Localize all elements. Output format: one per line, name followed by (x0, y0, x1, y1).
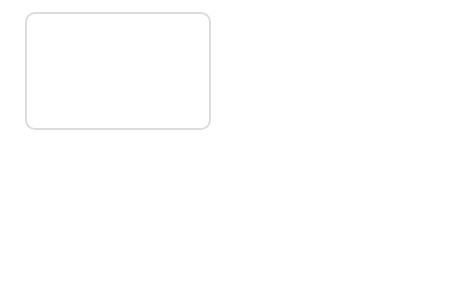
frame (25, 12, 211, 129)
